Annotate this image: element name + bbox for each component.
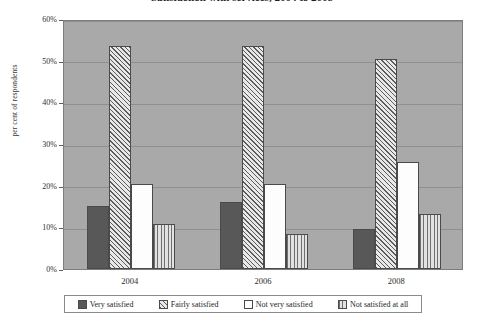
bar-very-satisfied-2008 (353, 229, 375, 269)
bar-not-satisfied-at-all-2006 (286, 234, 308, 269)
y-axis-tick-mark (59, 187, 63, 188)
legend-swatch-icon (78, 300, 87, 309)
bar-fairly-satisfied-2006 (242, 46, 264, 269)
bar-not-satisfied-at-all-2008 (419, 214, 441, 269)
bar-very-satisfied-2006 (220, 202, 242, 269)
y-axis-tick-mark (59, 145, 63, 146)
legend-item-fairly-satisfied[interactable]: Fairly satisfied (159, 300, 219, 309)
y-axis-tick-mark (59, 103, 63, 104)
legend-swatch-icon (244, 300, 253, 309)
bar-fairly-satisfied-2004 (109, 46, 131, 269)
legend-swatch-icon (338, 300, 347, 309)
legend-item-very-satisfied[interactable]: Very satisfied (78, 300, 134, 309)
y-axis-tick-label: 10% (17, 224, 57, 232)
plot-area (63, 20, 463, 270)
chart-title: Satisfaction with services, 2004 to 2008 (0, 0, 484, 2)
legend-swatch-icon (159, 300, 168, 309)
y-axis-tick-label: 30% (17, 141, 57, 149)
y-axis-tick-label: 20% (17, 183, 57, 191)
bar-chart-figure: Satisfaction with services, 2004 to 2008… (0, 0, 484, 321)
legend-item-label: Very satisfied (90, 300, 134, 309)
gridline (64, 21, 462, 22)
y-axis-tick-label: 50% (17, 58, 57, 66)
bar-fairly-satisfied-2008 (375, 59, 397, 269)
legend-item-label: Not satisfied at all (350, 300, 408, 309)
bar-very-satisfied-2004 (87, 206, 109, 269)
x-axis-group-label-2006: 2006 (203, 276, 323, 286)
bar-not-very-satisfied-2008 (397, 162, 419, 270)
legend-item-label: Fairly satisfied (171, 300, 219, 309)
legend-item-not-satisfied-at-all[interactable]: Not satisfied at all (338, 300, 408, 309)
x-axis-group-label-2004: 2004 (70, 276, 190, 286)
bar-not-very-satisfied-2004 (131, 184, 153, 269)
y-axis-tick-mark (59, 62, 63, 63)
y-axis-tick-mark (59, 270, 63, 271)
y-axis-tick-label: 40% (17, 99, 57, 107)
chart-legend: Very satisfiedFairly satisfiedNot very s… (64, 295, 422, 313)
legend-item-label: Not very satisfied (256, 300, 313, 309)
legend-item-not-very-satisfied[interactable]: Not very satisfied (244, 300, 313, 309)
bar-not-very-satisfied-2006 (264, 184, 286, 269)
y-axis-tick-label: 60% (17, 16, 57, 24)
y-axis-tick-mark (59, 20, 63, 21)
y-axis-tick-mark (59, 228, 63, 229)
x-axis-group-label-2008: 2008 (336, 276, 456, 286)
y-axis-tick-label: 0% (17, 266, 57, 274)
bar-not-satisfied-at-all-2004 (153, 224, 175, 269)
